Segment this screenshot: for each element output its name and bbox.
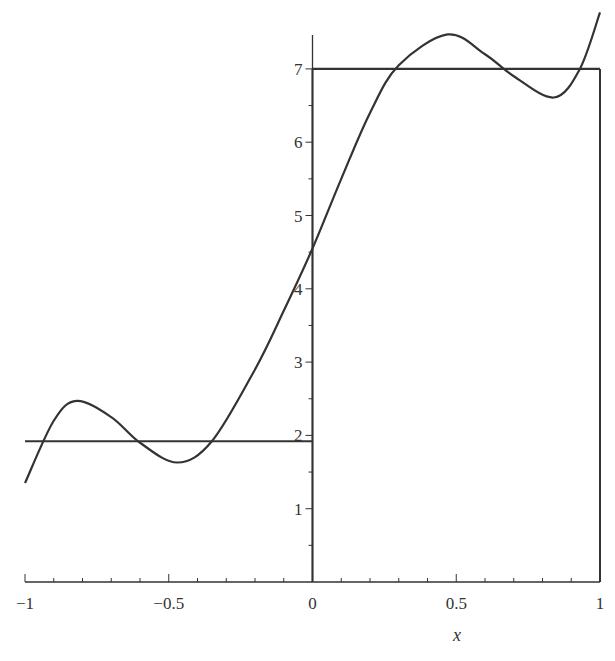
y-tick-label: 3 — [294, 353, 303, 372]
chart: −1−0.500.51 1234567 x — [0, 0, 615, 661]
x-tick-label: 1 — [596, 594, 605, 613]
y-tick-label: 4 — [294, 280, 303, 299]
x-tick-label: −1 — [16, 594, 34, 613]
y-tick-label: 5 — [294, 207, 303, 226]
x-tick-label: −0.5 — [153, 594, 184, 613]
y-tick-label: 1 — [294, 500, 303, 519]
x-axis-title: x — [452, 625, 461, 645]
y-axis: 1234567 — [294, 35, 313, 582]
step-function-series — [25, 69, 600, 582]
y-tick-label: 2 — [294, 426, 303, 445]
x-tick-label: 0.5 — [446, 594, 467, 613]
x-axis: −1−0.500.51 — [16, 574, 604, 613]
y-tick-label: 7 — [294, 60, 303, 79]
x-tick-label: 0 — [308, 594, 317, 613]
y-tick-label: 6 — [294, 133, 303, 152]
